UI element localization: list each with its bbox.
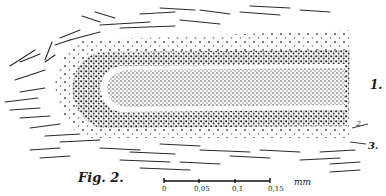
scale-tick-2: 0,1 (232, 185, 243, 193)
scale-tick-0: 0 (162, 185, 166, 193)
figure-caption: Fig. 2. (78, 170, 124, 185)
scale-tick-1: 0,05 (194, 185, 210, 193)
inner-core (107, 68, 345, 107)
histology-drawing (0, 0, 386, 196)
label-2: 2. (356, 119, 364, 128)
scale-tick-3: 0,15 (268, 185, 284, 193)
label-3: 3. (368, 140, 378, 151)
scale-unit: mm (294, 177, 311, 187)
label-1: 1. (370, 78, 383, 92)
scale-bar (164, 178, 270, 183)
